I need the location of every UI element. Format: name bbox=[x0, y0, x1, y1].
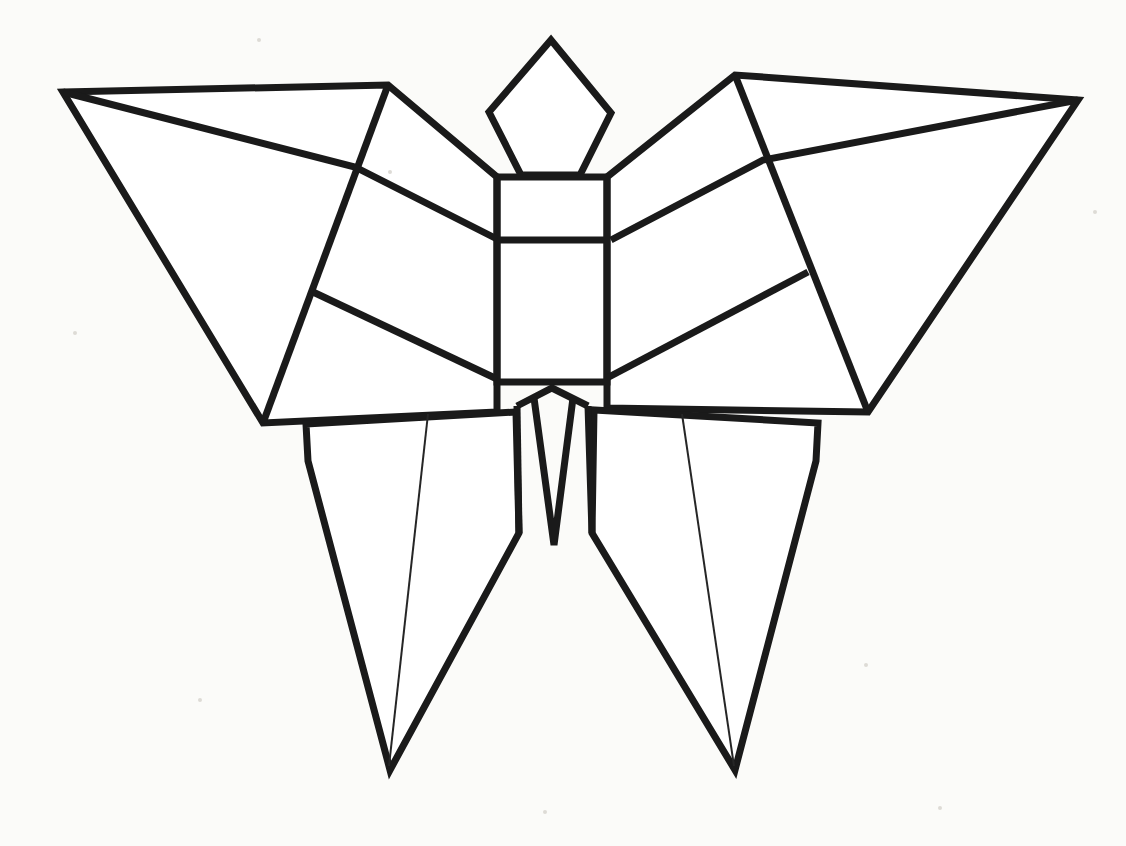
tail-right-edge: Right outer edge of the central tail bbox=[588, 406, 592, 533]
paper-speck-4 bbox=[864, 663, 868, 667]
paper-speck-3 bbox=[388, 170, 392, 174]
tail-left-edge: Left outer edge of the central tail bbox=[517, 406, 519, 533]
origami-butterfly-diagram: Kite / diamond shaped head above the tho… bbox=[0, 0, 1126, 846]
paper-speck-1 bbox=[1093, 210, 1097, 214]
paper-speck-2 bbox=[73, 331, 77, 335]
paper-speck-7 bbox=[938, 806, 942, 810]
paper-speck-5 bbox=[198, 698, 202, 702]
paper-speck-6 bbox=[543, 810, 547, 814]
body-rectangle-fill bbox=[497, 177, 607, 382]
figure-canvas: Kite / diamond shaped head above the tho… bbox=[0, 0, 1126, 846]
paper-speck-0 bbox=[257, 38, 261, 42]
